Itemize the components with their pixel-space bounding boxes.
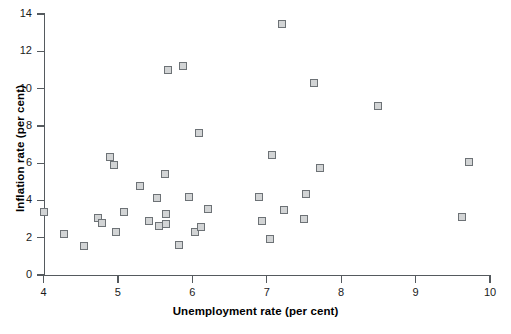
data-point <box>175 241 183 249</box>
x-axis-title: Unemployment rate (per cent) <box>0 305 511 317</box>
y-tick-mark <box>37 200 44 201</box>
y-tick-label: 14 <box>8 7 32 19</box>
x-tick-label: 10 <box>478 286 502 298</box>
data-point <box>197 223 205 231</box>
y-tick-mark <box>37 51 44 52</box>
data-point <box>145 217 153 225</box>
data-point <box>110 161 118 169</box>
y-tick-mark <box>37 125 44 126</box>
data-point <box>60 230 68 238</box>
y-tick-mark <box>37 88 44 89</box>
data-point <box>204 205 212 213</box>
data-point <box>268 151 276 159</box>
x-tick-label: 4 <box>32 286 56 298</box>
x-tick-mark <box>192 276 193 283</box>
data-point <box>310 79 318 87</box>
x-tick-mark <box>117 276 118 283</box>
data-point <box>136 182 144 190</box>
data-point <box>465 158 473 166</box>
data-point <box>195 129 203 137</box>
x-tick-mark <box>266 276 267 283</box>
data-point <box>153 194 161 202</box>
data-point <box>120 208 128 216</box>
y-tick-mark <box>37 163 44 164</box>
data-point <box>278 20 286 28</box>
data-point <box>179 62 187 70</box>
data-point <box>112 228 120 236</box>
data-point <box>162 210 170 218</box>
x-tick-mark <box>43 276 44 283</box>
x-tick-label: 9 <box>404 286 428 298</box>
data-point <box>40 208 48 216</box>
data-point <box>164 66 172 74</box>
y-tick-mark <box>37 237 44 238</box>
x-tick-label: 8 <box>329 286 353 298</box>
data-point <box>161 170 169 178</box>
y-tick-label: 12 <box>8 44 32 56</box>
data-point <box>302 190 310 198</box>
x-tick-mark <box>415 276 416 283</box>
y-tick-label: 0 <box>8 268 32 280</box>
y-tick-mark <box>37 13 44 14</box>
x-tick-label: 6 <box>180 286 204 298</box>
data-point <box>258 217 266 225</box>
data-point <box>374 102 382 110</box>
x-tick-mark <box>489 276 490 283</box>
data-point <box>98 219 106 227</box>
data-point <box>162 220 170 228</box>
y-tick-label: 2 <box>8 231 32 243</box>
data-point <box>458 213 466 221</box>
data-point <box>80 242 88 250</box>
data-point <box>280 206 288 214</box>
x-tick-label: 7 <box>255 286 279 298</box>
data-point <box>185 193 193 201</box>
data-point <box>106 153 114 161</box>
y-axis-title: Inflation rate (per cent) <box>14 85 26 212</box>
data-point <box>255 193 263 201</box>
data-point <box>300 215 308 223</box>
data-point <box>316 164 324 172</box>
data-point <box>266 235 274 243</box>
x-tick-label: 5 <box>106 286 130 298</box>
x-tick-mark <box>341 276 342 283</box>
scatter-chart: 02468101214 45678910 Inflation rate (per… <box>0 0 511 334</box>
